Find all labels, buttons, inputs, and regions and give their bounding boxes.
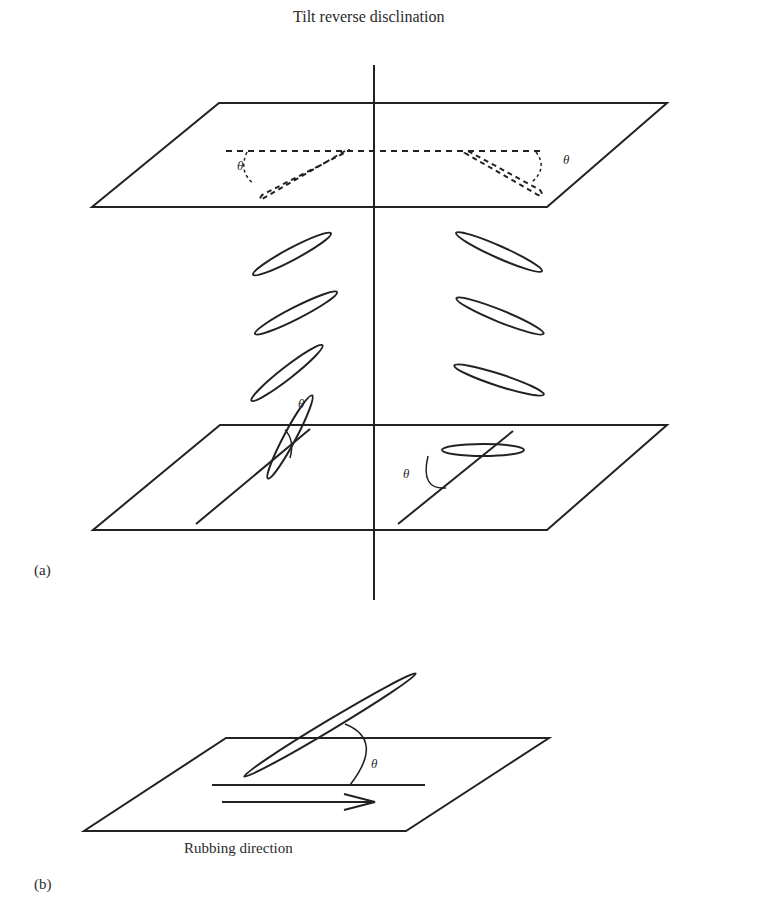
theta-label-top-right: θ — [563, 152, 569, 168]
panel-b-molecule — [242, 669, 419, 781]
theta-label-bottom-right: θ — [403, 466, 409, 482]
panel-b-label: (b) — [34, 876, 52, 893]
top-right-dashed-molecule — [465, 151, 542, 195]
molecule-left-3 — [248, 341, 326, 406]
top-left-dashed-molecule — [260, 150, 350, 200]
top-plate — [92, 103, 667, 207]
bottom-right-angle-arc — [426, 456, 446, 488]
figure-title: Tilt reverse disclination — [293, 8, 444, 26]
panel-a-label: (a) — [34, 562, 51, 579]
top-right-dashed-arc — [532, 152, 541, 182]
molecule-right-3 — [452, 360, 545, 400]
diagram-canvas — [0, 0, 759, 917]
molecule-right-2 — [454, 293, 546, 339]
top-left-dashed-arc — [244, 152, 254, 184]
rubbing-direction-caption: Rubbing direction — [184, 840, 293, 857]
theta-label-top-left: θ — [237, 158, 243, 174]
theta-label-panel-b: θ — [371, 756, 377, 772]
molecule-right-1 — [454, 227, 545, 276]
molecule-left-2 — [252, 287, 339, 339]
theta-label-bottom-left: θ — [298, 396, 304, 412]
molecule-left-1 — [250, 228, 333, 280]
bottom-plate — [93, 425, 667, 530]
panel-b-angle-arc — [345, 724, 366, 785]
